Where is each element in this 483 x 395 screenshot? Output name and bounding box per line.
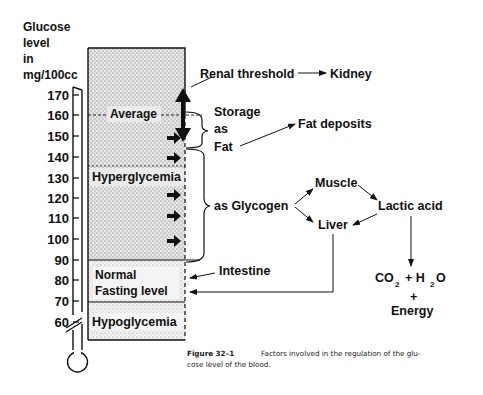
fat-label: Fat [214,140,234,154]
svg-text:150: 150 [47,129,69,144]
muscle-label: Muscle [315,176,357,190]
svg-text:CO: CO [375,271,394,285]
axis-tick-labels: 170 160 150 140 130 120 110 100 90 80 70… [47,88,69,330]
svg-text:level: level [23,36,50,50]
svg-text:cose level of the blood.: cose level of the blood. [187,360,271,369]
as-glycogen-label: as Glycogen [214,199,288,213]
products-label: CO 2 + H 2 O + Energy [375,271,446,318]
normal-label: Normal [95,268,136,282]
svg-text:mg/100cc: mg/100cc [23,68,78,82]
svg-text:+ H: + H [405,271,425,285]
svg-text:90: 90 [55,253,69,268]
hyperglycemia-zone [88,48,185,260]
svg-text:in: in [23,52,34,66]
glucose-regulation-diagram: Glucose level in mg/100cc 170 160 150 14… [0,0,483,395]
axis-title: Glucose level in mg/100cc [23,20,78,82]
hyperglycemia-label: Hyperglycemia [92,170,182,184]
svg-text:170: 170 [47,88,69,103]
svg-text:2: 2 [430,280,435,289]
svg-text:Figure 32–1: Figure 32–1 [187,349,234,358]
svg-text:Energy: Energy [391,304,433,318]
intestine-label: Intestine [219,264,270,278]
as-label: as [214,122,228,136]
svg-text:Factors involved in the regula: Factors involved in the regulation of th… [261,349,421,358]
axis-ticks [73,95,79,322]
svg-text:2: 2 [395,280,400,289]
kidney-label: Kidney [330,67,372,81]
glycogen-brace [186,149,210,262]
svg-text:160: 160 [47,108,69,123]
svg-text:60: 60 [55,315,69,330]
liver-label: Liver [318,218,348,232]
svg-text:70: 70 [55,294,69,309]
fat-deposits-label: Fat deposits [298,117,372,131]
svg-text:100: 100 [47,232,69,247]
svg-text:130: 130 [47,171,69,186]
hypoglycemia-label: Hypoglycemia [92,315,178,329]
fasting-level-label: Fasting level [95,284,168,298]
svg-text:80: 80 [55,273,69,288]
thermometer-icon [66,87,88,372]
storage-label: Storage [214,105,261,119]
svg-text:+: + [410,290,417,304]
svg-text:Glucose: Glucose [23,20,71,34]
svg-text:O: O [436,271,446,285]
svg-text:140: 140 [47,150,69,165]
svg-text:120: 120 [47,191,69,206]
renal-threshold-label: Renal threshold [200,67,294,81]
lactic-acid-label: Lactic acid [378,199,443,213]
figure-caption: Figure 32–1 Factors involved in the regu… [187,349,421,369]
average-label: Average [110,107,157,121]
svg-text:110: 110 [48,211,69,226]
